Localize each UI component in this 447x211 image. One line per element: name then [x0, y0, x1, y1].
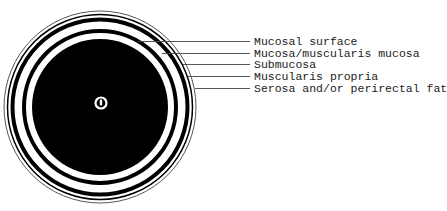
concentric-layers	[4, 11, 196, 203]
label-serosa-perirectal-fat: Serosa and/or perirectal fat	[254, 83, 447, 95]
probe-dot	[100, 100, 102, 106]
mucosa-disc	[32, 39, 168, 175]
